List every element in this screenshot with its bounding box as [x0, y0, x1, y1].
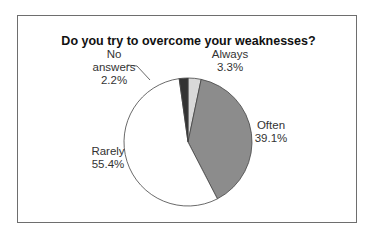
label-always-name: Always [210, 48, 250, 61]
label-no-answers-name-2: answers [92, 61, 136, 74]
label-no-answers: No answers 2.2% [92, 48, 136, 87]
label-no-answers-value: 2.2% [92, 74, 136, 87]
label-rarely-value: 55.4% [88, 158, 128, 171]
label-rarely-name: Rarely [88, 145, 128, 158]
label-often-name: Often [251, 119, 291, 132]
label-always: Always 3.3% [210, 48, 250, 74]
label-no-answers-name-1: No [92, 48, 136, 61]
label-often-value: 39.1% [251, 132, 291, 145]
label-always-value: 3.3% [210, 61, 250, 74]
label-often: Often 39.1% [251, 119, 291, 145]
label-rarely: Rarely 55.4% [88, 145, 128, 171]
pie-chart [0, 0, 377, 237]
